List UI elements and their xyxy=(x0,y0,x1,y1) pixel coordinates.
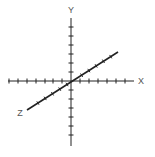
z-axis-label: Z xyxy=(17,108,23,118)
y-axis-label: Y xyxy=(68,5,74,15)
axes-diagram: X Y Z xyxy=(0,0,155,157)
x-axis-label: X xyxy=(138,76,144,86)
axes-group xyxy=(8,18,134,146)
